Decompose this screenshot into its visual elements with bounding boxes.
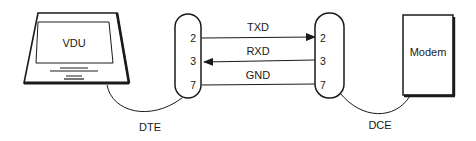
modem-box: Modem — [403, 15, 455, 96]
dte-label: DTE — [139, 121, 161, 133]
dte-pin-2: 2 — [190, 32, 196, 44]
signal-gnd: GND — [202, 69, 315, 85]
dte-cable — [107, 85, 182, 112]
signal-txd: TXD — [202, 21, 315, 38]
vdu-monitor-icon: VDU — [24, 13, 129, 83]
dce-pin-3: 3 — [320, 55, 326, 67]
vdu-label: VDU — [62, 37, 85, 49]
dte-pin-3: 3 — [190, 55, 196, 67]
dte-pin-7: 7 — [190, 79, 196, 91]
signal-rxd: RXD — [204, 45, 315, 62]
rs232-diagram: VDU DTE 2 3 7 TXD RXD GND 2 3 7 DCE Mode… — [0, 0, 476, 141]
gnd-label: GND — [246, 69, 271, 81]
dce-connector: 2 3 7 — [315, 13, 344, 98]
dce-label: DCE — [368, 119, 391, 131]
dce-cable — [340, 93, 410, 114]
modem-label: Modem — [410, 46, 447, 58]
dce-pin-7: 7 — [320, 79, 326, 91]
txd-label: TXD — [247, 21, 269, 33]
dte-connector: 2 3 7 — [175, 14, 201, 98]
rxd-label: RXD — [246, 45, 269, 57]
dce-pin-2: 2 — [320, 32, 326, 44]
